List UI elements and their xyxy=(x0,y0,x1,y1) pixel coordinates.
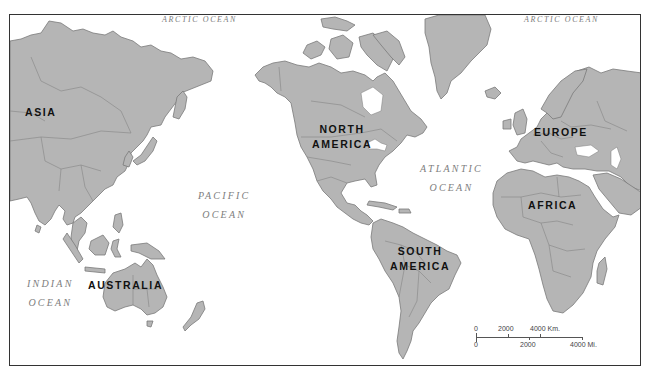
ocean-label-atlantic-line1: ATLANTIC xyxy=(420,159,483,178)
continent-label-south-america-line2: AMERICA xyxy=(390,259,450,274)
world-map-land xyxy=(10,15,641,366)
ireland xyxy=(503,119,511,129)
continent-label-africa: AFRICA xyxy=(528,198,577,213)
scale-tick-mi-2000 xyxy=(529,337,530,340)
continent-label-europe: EUROPE xyxy=(534,125,588,140)
hispaniola xyxy=(399,209,411,213)
new-guinea xyxy=(131,243,165,259)
greenland xyxy=(425,15,491,99)
madagascar xyxy=(597,257,607,285)
scale-mi-0: 0 xyxy=(474,341,478,348)
ocean-label-arctic-west: ARCTIC OCEAN xyxy=(162,14,237,26)
scale-mi-2000: 2000 xyxy=(520,341,536,348)
scale-tick-km-2000 xyxy=(508,334,509,337)
new-zealand xyxy=(183,301,205,331)
continent-label-asia: ASIA xyxy=(25,105,57,120)
sri-lanka xyxy=(35,225,41,233)
continent-label-north-america-line1: NORTH xyxy=(312,122,372,137)
asia-landmass xyxy=(10,21,213,225)
scale-bar: 0 2000 4000 Km. 0 2000 4000 Mi. xyxy=(470,325,620,365)
borneo xyxy=(89,235,109,255)
scale-tick-mi-4000 xyxy=(582,337,583,340)
ocean-label-indian-line1: INDIAN xyxy=(27,274,74,293)
ocean-label-indian-line2: OCEAN xyxy=(27,293,74,312)
arctic-archipelago-2 xyxy=(329,35,353,59)
south-america-landmass xyxy=(371,219,461,359)
scale-km-2000: 2000 xyxy=(498,325,514,332)
ocean-label-arctic-east: ARCTIC OCEAN xyxy=(524,14,599,26)
scale-mi-4000: 4000 Mi. xyxy=(570,341,597,348)
arctic-archipelago-4 xyxy=(321,17,355,31)
philippines xyxy=(113,213,123,233)
ocean-label-pacific: PACIFIC OCEAN xyxy=(198,186,250,224)
ocean-label-pacific-line2: OCEAN xyxy=(198,205,250,224)
great-britain xyxy=(513,109,527,135)
tasmania xyxy=(147,321,153,327)
cuba xyxy=(367,201,397,210)
continent-label-south-america: SOUTH AMERICA xyxy=(390,244,450,274)
ocean-label-atlantic-line2: OCEAN xyxy=(420,178,483,197)
continent-label-australia: AUSTRALIA xyxy=(88,278,163,293)
ocean-label-atlantic: ATLANTIC OCEAN xyxy=(420,159,483,197)
world-map: ARCTIC OCEAN ARCTIC OCEAN PACIFIC OCEAN … xyxy=(9,14,641,366)
scale-tick-km-4000 xyxy=(540,334,541,337)
ocean-label-indian: INDIAN OCEAN xyxy=(27,274,74,312)
sulawesi xyxy=(111,239,121,257)
scale-km-4000: 4000 Km. xyxy=(530,325,560,332)
iceland xyxy=(485,87,501,99)
ocean-label-pacific-line1: PACIFIC xyxy=(198,186,250,205)
java xyxy=(85,267,105,273)
continent-label-north-america: NORTH AMERICA xyxy=(312,122,372,152)
scale-km-0: 0 xyxy=(474,325,478,332)
continent-label-north-america-line2: AMERICA xyxy=(312,137,372,152)
arctic-archipelago-1 xyxy=(303,41,325,59)
continent-label-south-america-line1: SOUTH xyxy=(390,244,450,259)
